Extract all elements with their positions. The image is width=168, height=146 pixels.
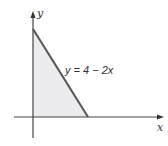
graph: y x y = 4 − 2x: [0, 0, 168, 146]
y-axis-label: y: [36, 7, 44, 20]
y-axis-arrow-icon: [31, 11, 36, 18]
x-axis-arrow-icon: [157, 115, 164, 120]
x-axis-label: x: [157, 121, 164, 134]
equation-label: y = 4 − 2x: [64, 64, 114, 76]
